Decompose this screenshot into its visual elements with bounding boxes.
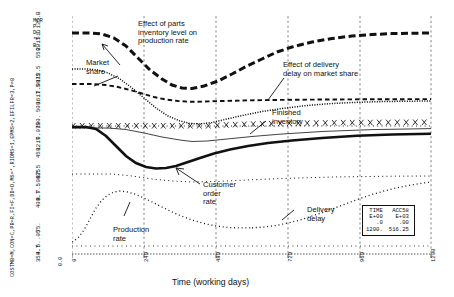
- y-axis-scale-row-2: 450.12.T10..075100.: [36, 121, 42, 158]
- annotation-customer-order-rate: Customer order rate: [203, 181, 236, 207]
- run-header-label: COSTMB=M,CON=C,PR=R,FI=F,DD=D,MS=*,RIDMS…: [10, 27, 22, 277]
- x-axis-ticks: [72, 254, 431, 258]
- y-axis-scale-row-4: 350.4.T5..0575.: [36, 225, 42, 262]
- y-tick-4-4: 75.: [36, 225, 42, 232]
- annotation-delivery-delay-market-share: Effect of delivery delay on market share: [283, 61, 358, 78]
- y-tick-3-0: 400.: [36, 201, 42, 208]
- y-tick-3-2: 7.5: [36, 186, 42, 193]
- y-tick-0-0: 550.: [36, 51, 42, 58]
- y-tick-3-1: 8.T: [36, 193, 42, 200]
- value-readout-table: TIME ACC58 E+00 E+03 .0 .00 1200. 516.25: [366, 208, 411, 234]
- x-tick-label-1: 240: [143, 252, 150, 262]
- y-tick-4-2: 5.: [36, 240, 42, 247]
- x-tick-text-3: 720: [287, 252, 294, 262]
- y-tick-1-1: 16.T: [36, 97, 42, 104]
- x-tick-text-0: 0: [71, 259, 78, 262]
- y-tick-3-4: 87.5: [36, 171, 42, 178]
- y-tick-2-3: .075: [36, 128, 42, 135]
- y-tick-4-3: .05: [36, 232, 42, 239]
- annotation-delivery-delay: Delivery delay: [307, 206, 334, 223]
- value-readout-cell-2-1: 516.25: [385, 227, 411, 233]
- value-readout-row-2: 1200. 516.25: [366, 227, 411, 233]
- annotation-finished-inventory: Finished inventory: [272, 109, 303, 126]
- series-parts-inventory-effect: [72, 33, 431, 89]
- y-tick-2-4: 100.: [36, 121, 42, 128]
- y-tick-0-4: 125.B: [36, 21, 42, 28]
- y-tick-0-3: 1.: [36, 28, 42, 35]
- value-readout-box: TIME ACC58 E+00 E+03 .0 .00 1200. 516.25: [362, 205, 415, 236]
- y-tick-3-3: .0625: [36, 178, 42, 185]
- value-readout-cell-2-0: 1200.: [366, 227, 385, 233]
- x-tick-text-1: 240: [143, 252, 150, 262]
- y-tick-0-1: 20.T: [36, 43, 42, 50]
- x-axis-title: Time (working days): [172, 277, 249, 287]
- y-axis-scale-row-1: 500.16.T12.5.0875112.5: [36, 75, 42, 112]
- y-tick-1-3: .0875: [36, 82, 42, 89]
- y-tick-0-2: 15.D: [36, 36, 42, 43]
- y-tick-2-0: 450.: [36, 151, 42, 158]
- x-tick-text-5: 1200: [430, 249, 437, 262]
- y-tick-1-2: 12.5: [36, 90, 42, 97]
- x-tick-label-4: 960: [359, 252, 366, 262]
- y-axis-scale-row-5: 0.0: [58, 257, 64, 266]
- x-tick-text-2: 480: [215, 252, 222, 262]
- series-delivery-delay-effect: [72, 84, 431, 102]
- series-finished-inventory-markers: [72, 120, 427, 129]
- series-market-share: [72, 69, 431, 124]
- y-axis-scale-row-3: 400.8.T7.5.062587.5: [36, 171, 42, 208]
- y-tick-1-4: 112.5: [36, 75, 42, 82]
- y-axis-scale-row-0: 550.20.T15.D1.125.B: [36, 21, 42, 58]
- annotation-market-share: Market share: [86, 59, 109, 76]
- chart-root: COSTMB=M,CON=C,PR=R,FI=F,DD=D,MS=*,RIDMS…: [0, 0, 454, 297]
- y-tick-2-1: 12.T: [36, 143, 42, 150]
- annotation-leaders: [94, 44, 294, 220]
- annotation-production-rate: Production rate: [113, 226, 149, 243]
- y-tick-1-0: 500.: [36, 105, 42, 112]
- y-tick-5-1: 0.0: [58, 257, 64, 266]
- x-tick-text-4: 960: [359, 252, 366, 262]
- y-tick-4-1: 4.T: [36, 247, 42, 254]
- x-tick-label-5: 1200: [430, 249, 437, 262]
- y-tick-2-2: 10.: [36, 136, 42, 143]
- y-tick-4-0: 350.: [36, 255, 42, 262]
- series-midband-dots: [72, 174, 431, 182]
- x-tick-label-0: 0: [71, 259, 78, 262]
- x-tick-label-3: 720: [287, 252, 294, 262]
- x-tick-label-2: 480: [215, 252, 222, 262]
- annotation-parts-inventory: Effect of parts inventory level on produ…: [138, 20, 197, 46]
